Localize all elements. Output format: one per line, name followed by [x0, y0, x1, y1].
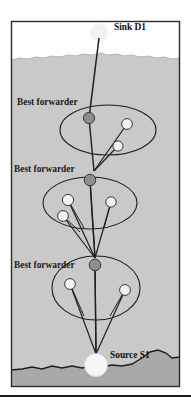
node-best-forwarder-2: [84, 174, 96, 186]
label-best-forwarder-1: Best forwarder: [17, 97, 78, 107]
label-source: Source S1: [110, 350, 150, 360]
figure-root: Sink D1 Best forwarder Best forwarder Be…: [0, 0, 191, 403]
node-candidate-2a: [62, 194, 73, 205]
network-diagram: Sink D1 Best forwarder Best forwarder Be…: [0, 0, 191, 403]
node-source-s1: [85, 354, 108, 377]
node-candidate-1a: [122, 119, 133, 130]
node-candidate-3a: [65, 279, 76, 290]
node-candidate-3b: [120, 285, 131, 296]
node-best-forwarder-1: [83, 112, 94, 123]
node-candidate-2b: [58, 211, 69, 222]
node-candidate-1b: [113, 141, 123, 151]
label-sink: Sink D1: [114, 22, 146, 32]
label-best-forwarder-3: Best forwarder: [14, 260, 75, 270]
node-candidate-2c: [106, 197, 116, 207]
label-best-forwarder-2: Best forwarder: [14, 164, 75, 174]
node-best-forwarder-3: [89, 259, 101, 271]
